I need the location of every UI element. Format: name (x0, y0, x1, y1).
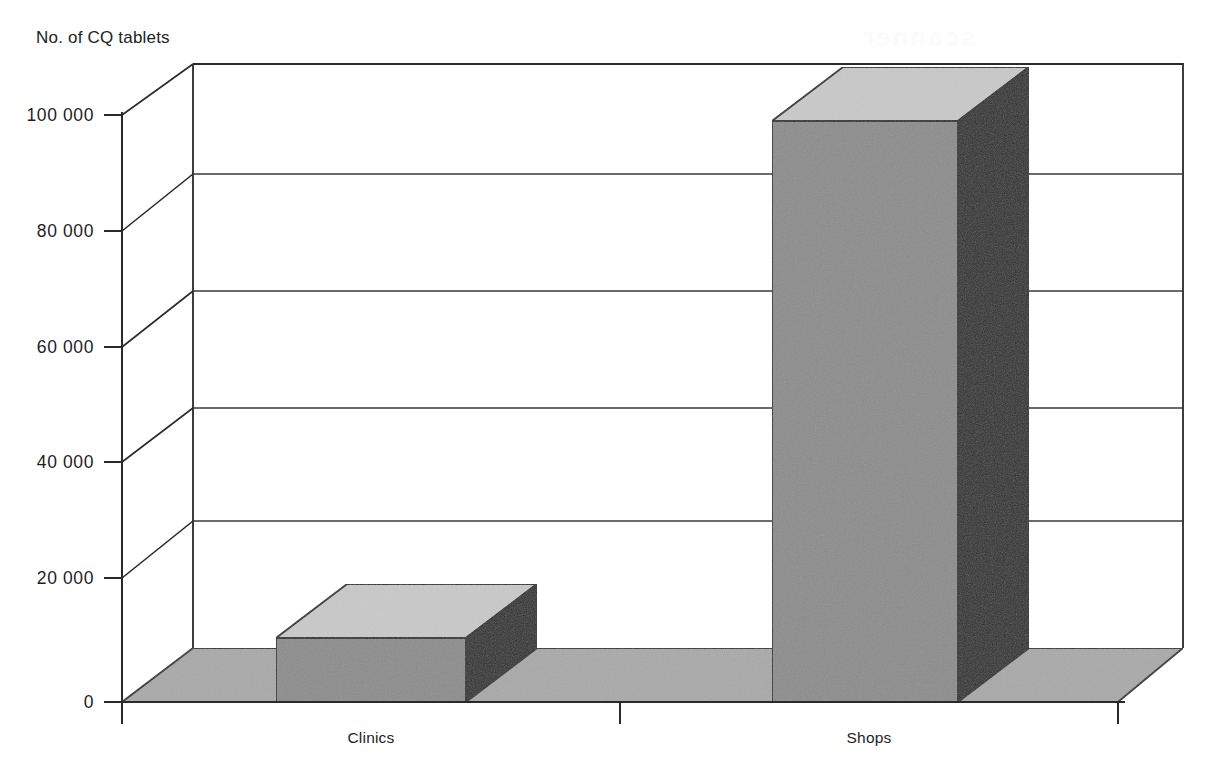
y-tick-label-40000: 40 000 (0, 452, 94, 473)
y-tick-label-0: 0 (0, 692, 94, 713)
plot-back-wall (193, 64, 1183, 648)
y-tick-label-80000: 80 000 (0, 221, 94, 242)
x-category-label-shops: Shops (847, 729, 892, 747)
x-category-label-clinics: Clinics (347, 729, 394, 747)
x-axis-ticks (122, 702, 1118, 724)
bar-shops[interactable] (772, 67, 1029, 702)
x-axis (110, 702, 1125, 724)
y-axis (104, 112, 122, 702)
axis-depth-connectors (122, 64, 193, 578)
y-axis-ticks (104, 115, 122, 702)
chart-container: scanner No. of CQ tablets (0, 0, 1211, 771)
chart-plot (0, 0, 1211, 771)
y-tick-label-20000: 20 000 (0, 568, 94, 589)
y-tick-label-60000: 60 000 (0, 337, 94, 358)
y-tick-label-100000: 100 000 (0, 105, 94, 126)
